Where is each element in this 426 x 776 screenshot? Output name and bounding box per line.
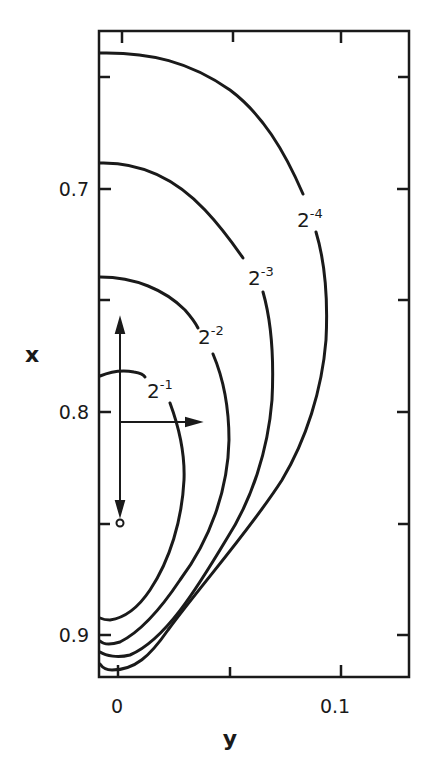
arrow-down-head-icon [116, 501, 124, 515]
contour-2-3-lower [100, 292, 273, 656]
contour-label-2-4: 2-4 [297, 206, 323, 232]
y-tick-label-0.8: 0.8 [59, 401, 89, 423]
y-tick-label-0.7: 0.7 [59, 178, 89, 200]
plot-frame [99, 31, 409, 677]
y-axis-title: x [25, 342, 39, 367]
y-axis-ticks-left [99, 77, 111, 635]
y-tick-label-0.9: 0.9 [59, 624, 89, 646]
x-tick-label-0.1: 0.1 [320, 695, 350, 717]
contour-label-2-1: 2-1 [147, 377, 173, 403]
contour-label-2-3: 2-3 [248, 264, 274, 290]
contour-2-4-lower [100, 232, 327, 670]
arrow-right-head-icon [186, 418, 200, 426]
contour-2-1-lower [100, 403, 184, 620]
arrow-up-head-icon [116, 319, 124, 333]
contour-label-2-2: 2-2 [198, 323, 224, 349]
contour-2-4-upper [100, 53, 303, 194]
x-axis-title: y [223, 726, 237, 751]
x-tick-label-0: 0 [111, 695, 123, 717]
x-axis-ticks-bottom [118, 665, 341, 677]
y-axis-ticks-right [397, 77, 409, 635]
contour-chart: 0.7 0.8 0.9 0 0.1 y x 2-4 2-3 2-2 2-1 [0, 0, 426, 776]
origin-point-marker [117, 520, 124, 527]
contour-2-2-upper [100, 277, 198, 328]
contour-2-1-upper [100, 371, 145, 377]
contour-2-3-upper [100, 163, 243, 258]
x-axis-ticks-top [122, 31, 341, 43]
